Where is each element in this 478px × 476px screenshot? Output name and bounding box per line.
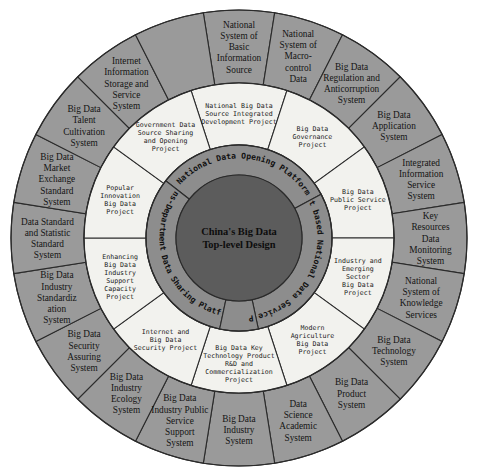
center-hub xyxy=(176,175,302,301)
outer-label: Big DataSecurityAssuringSystem xyxy=(67,329,101,373)
outer-segment-data-standard-and-statistic-standard-system[interactable] xyxy=(11,202,86,273)
hub-circle[interactable] xyxy=(176,175,302,301)
outer-label: NationalSystem ofKnowledgeServices xyxy=(400,276,443,320)
middle-label: National Big DataSource IntegratedDevelo… xyxy=(201,102,276,126)
outer-label: Big DataIndustryEcologySystem xyxy=(110,372,143,416)
outer-label: Big DataIndustrySystem xyxy=(222,414,255,446)
middle-label: EnhancingBig DataIndustrySupportCapacity… xyxy=(102,253,138,301)
diagram-canvas: NationalSystem ofBasicInformationSourceN… xyxy=(0,0,478,476)
outer-label: Big DataMarketExchangeStandardSystem xyxy=(39,152,76,207)
outer-label: Big DataProductSystem xyxy=(335,377,368,409)
concentric-ring-diagram: NationalSystem ofBasicInformationSourceN… xyxy=(0,0,478,476)
